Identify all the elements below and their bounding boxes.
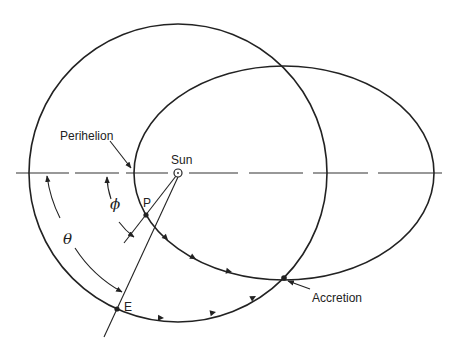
theta-label: θ	[63, 230, 72, 248]
theta-arc-upper	[47, 176, 60, 218]
orbit-diagram: Perihelion Sun P E Accretion θ ϕ	[0, 0, 458, 354]
perihelion-pointer	[110, 141, 131, 168]
ellipse-direction-arrows	[162, 234, 233, 275]
sun-label: Sun	[171, 153, 192, 167]
accretion-pointer	[288, 281, 310, 289]
accretion-label: Accretion	[312, 291, 362, 305]
point-e-label: E	[124, 300, 132, 314]
phi-arc-lower	[119, 222, 134, 237]
theta-arc-lower	[75, 248, 122, 292]
sun-icon	[174, 169, 182, 177]
point-p-label: P	[143, 196, 151, 210]
accretion-dot	[281, 275, 287, 281]
point-e-dot	[114, 306, 119, 311]
phi-label: ϕ	[110, 195, 120, 213]
point-p-dot	[143, 212, 148, 217]
perihelion-label: Perihelion	[60, 129, 113, 143]
